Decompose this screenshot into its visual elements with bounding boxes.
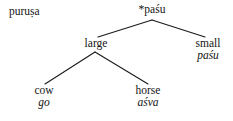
tree-node-small: small paśu bbox=[196, 38, 221, 61]
standalone-label-purusa: puruṣa bbox=[9, 5, 40, 17]
node-horse-form: aśva bbox=[136, 97, 161, 109]
node-small-gloss: small bbox=[196, 38, 221, 50]
tree-node-large: large bbox=[85, 38, 108, 50]
tree-node-root: *paśu bbox=[139, 4, 166, 16]
node-horse-gloss: horse bbox=[136, 85, 161, 97]
node-cow-form: go bbox=[34, 97, 53, 109]
node-root-gloss: *paśu bbox=[139, 4, 166, 16]
node-large-gloss: large bbox=[85, 38, 108, 50]
node-small-form: paśu bbox=[196, 50, 221, 62]
tree-node-cow: cow go bbox=[34, 85, 53, 108]
node-cow-gloss: cow bbox=[34, 85, 53, 97]
edge-root-large bbox=[98, 20, 152, 37]
edge-root-small bbox=[152, 20, 205, 37]
edge-large-horse bbox=[95, 52, 148, 84]
tree-node-horse: horse aśva bbox=[136, 85, 161, 108]
edge-large-cow bbox=[45, 52, 95, 84]
tree-diagram: puruṣa *paśu large small paśu cow go hor… bbox=[0, 0, 233, 121]
